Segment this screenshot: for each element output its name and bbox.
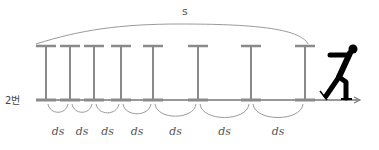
total-distance-arc bbox=[36, 24, 308, 44]
segment-arc bbox=[96, 104, 119, 113]
pole bbox=[60, 46, 80, 100]
pole bbox=[143, 46, 163, 100]
row-label: 2번 bbox=[5, 95, 20, 106]
pole bbox=[295, 46, 315, 100]
segment-label: ds bbox=[52, 125, 65, 138]
poles-group bbox=[36, 46, 315, 100]
pole bbox=[84, 46, 104, 100]
segment-label: ds bbox=[131, 125, 144, 138]
segment-label: ds bbox=[169, 125, 182, 138]
skater-icon bbox=[320, 45, 358, 101]
pole bbox=[241, 46, 261, 100]
segment-label: ds bbox=[101, 125, 114, 138]
pole-spacing-diagram: s 2번 dsdsdsdsdsdsds bbox=[0, 0, 379, 150]
pole bbox=[111, 46, 131, 100]
pole bbox=[36, 46, 56, 100]
skater-front-leg bbox=[339, 77, 346, 98]
segment-arc bbox=[253, 104, 303, 118]
total-distance-label: s bbox=[182, 5, 188, 18]
segment-label: ds bbox=[218, 125, 231, 138]
segment-labels-group: dsdsdsdsdsdsds bbox=[52, 125, 285, 138]
segment-arc bbox=[72, 104, 92, 112]
segment-arc bbox=[155, 104, 196, 116]
segment-label: ds bbox=[272, 125, 285, 138]
skater-back-leg bbox=[326, 77, 339, 96]
segment-label: ds bbox=[76, 125, 89, 138]
pole bbox=[188, 46, 208, 100]
segment-arcs-group bbox=[48, 104, 303, 118]
segment-arc bbox=[123, 104, 151, 114]
segment-arc bbox=[48, 104, 68, 112]
segment-arc bbox=[200, 104, 249, 118]
